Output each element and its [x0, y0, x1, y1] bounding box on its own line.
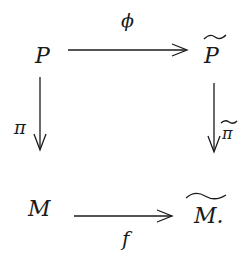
node-top-right: P	[203, 43, 220, 68]
node-top-left: P	[34, 43, 51, 68]
arrow-right	[208, 83, 220, 152]
arrow-top	[68, 44, 187, 56]
arrow-bottom	[74, 210, 172, 222]
wide-tilde-bottom-right	[186, 193, 226, 198]
tilde-pi	[221, 121, 237, 124]
label-pi-tilde: π	[221, 124, 233, 143]
tilde-top-right	[204, 35, 226, 39]
label-pi: π	[13, 117, 27, 138]
label-f: f	[120, 227, 133, 251]
arrow-left	[34, 77, 46, 150]
label-phi: ϕ	[121, 9, 134, 31]
commutative-diagram: P P M M. ϕ π π f	[0, 0, 243, 260]
node-bottom-right: M.	[193, 203, 224, 228]
node-bottom-left: M	[27, 196, 51, 221]
